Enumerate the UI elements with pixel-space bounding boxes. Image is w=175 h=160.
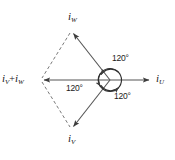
label-vector-iw: iW [68,11,77,24]
label-iv-subscript: V [71,138,75,146]
vector-iw [74,34,111,81]
phasor-diagram-figure: iW iV iU iV+iW 120° 120° 120° [0,0,175,160]
label-angle-top: 120° [112,54,129,63]
construction-line-upper [42,33,70,78]
label-ivw-subscript2: W [18,78,24,86]
label-vector-iv-plus-iw: iV+iW [2,73,24,86]
label-angle-bottom: 120° [114,92,131,101]
label-iu-subscript: U [159,78,164,86]
label-vector-iu: iU [156,73,164,86]
label-vector-iv: iV [68,133,75,146]
phasor-diagram-canvas [0,0,175,160]
label-angle-left: 120° [66,84,83,93]
label-iw-subscript: W [71,16,77,24]
